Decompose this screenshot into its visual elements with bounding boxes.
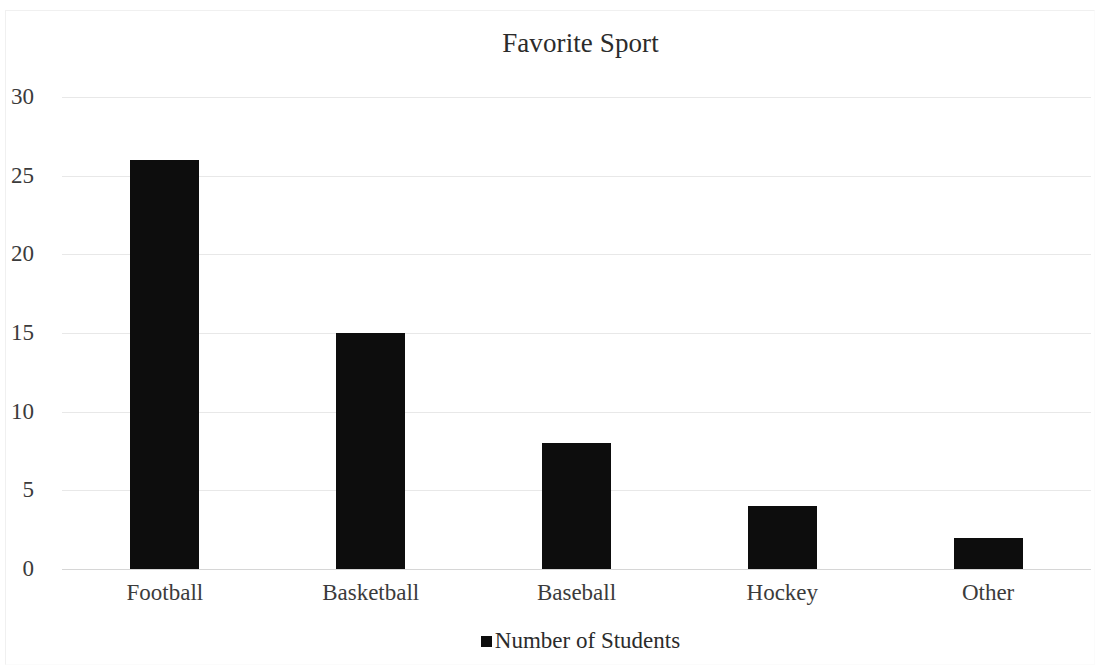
y-axis-tick-label: 5 xyxy=(0,478,34,501)
square-marker-icon xyxy=(481,636,492,647)
y-axis-tick-label: 0 xyxy=(0,557,34,580)
x-axis-tick-label: Hockey xyxy=(679,578,885,612)
x-axis-tick-label: Football xyxy=(62,578,268,612)
bars xyxy=(62,97,1091,569)
bar-other xyxy=(954,538,1023,569)
x-axis-tick-label: Basketball xyxy=(268,578,474,612)
bar-baseball xyxy=(542,443,611,569)
gridline xyxy=(62,569,1091,570)
chart-title: Favorite Sport xyxy=(0,27,1103,59)
chart-legend: Number of Students xyxy=(0,628,1103,654)
x-axis-tick-labels: FootballBasketballBaseballHockeyOther xyxy=(62,578,1091,612)
y-axis-tick-label: 20 xyxy=(0,242,34,265)
plot-area: 051015202530 xyxy=(62,97,1091,569)
y-axis-tick-label: 25 xyxy=(0,164,34,187)
legend-entry-label: Number of Students xyxy=(495,628,680,654)
favorite-sport-bar-chart: Favorite Sport 051015202530 FootballBask… xyxy=(0,0,1103,672)
x-axis-tick-label: Other xyxy=(885,578,1091,612)
bar-football xyxy=(130,160,199,569)
x-axis-tick-label: Baseball xyxy=(474,578,680,612)
bar-basketball xyxy=(336,333,405,569)
y-axis-tick-label: 15 xyxy=(0,321,34,344)
y-axis-tick-label: 10 xyxy=(0,400,34,423)
bar-hockey xyxy=(748,506,817,569)
y-axis-tick-label: 30 xyxy=(0,85,34,108)
